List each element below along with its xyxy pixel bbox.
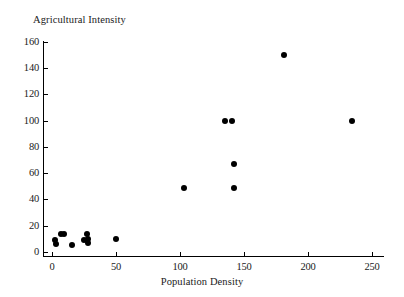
data-point bbox=[349, 118, 355, 124]
y-axis-tick-label: 100 bbox=[0, 116, 39, 126]
x-axis-tick-label: 0 bbox=[32, 261, 72, 272]
x-axis-line bbox=[43, 256, 384, 257]
data-point bbox=[281, 52, 287, 58]
y-axis-tick-label: 120 bbox=[0, 89, 39, 99]
y-axis-tick-label: 0 bbox=[0, 247, 39, 257]
y-axis-tick-label: 60 bbox=[0, 168, 39, 178]
data-point bbox=[181, 185, 187, 191]
data-point bbox=[61, 231, 67, 237]
y-axis-tick-label: 160 bbox=[0, 37, 39, 47]
data-point bbox=[222, 118, 228, 124]
y-axis-tick-label: 40 bbox=[0, 194, 39, 204]
y-axis-tick-label: 140 bbox=[0, 63, 39, 73]
plot-area bbox=[43, 42, 383, 256]
x-axis-tick-label: 200 bbox=[288, 261, 328, 272]
x-axis-tick-label: 250 bbox=[352, 261, 392, 272]
data-point bbox=[113, 236, 119, 242]
x-axis-tick-label: 150 bbox=[224, 261, 264, 272]
y-axis-tick-label: 20 bbox=[0, 221, 39, 231]
y-axis-tick-label: 80 bbox=[0, 142, 39, 152]
x-axis-title: Population Density bbox=[0, 276, 404, 287]
scatter-chart-figure: Agricultural Intensity 02040608010012014… bbox=[0, 0, 404, 297]
x-axis-tick-label: 100 bbox=[160, 261, 200, 272]
data-point bbox=[231, 185, 237, 191]
data-point bbox=[85, 236, 91, 242]
data-point bbox=[53, 241, 59, 247]
y-axis-title: Agricultural Intensity bbox=[33, 14, 126, 25]
data-point bbox=[231, 161, 237, 167]
x-axis-tick-label: 50 bbox=[96, 261, 136, 272]
